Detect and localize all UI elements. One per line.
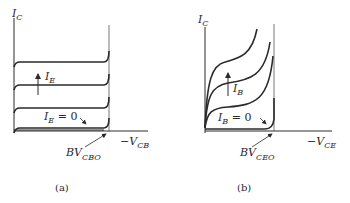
svg-text:IE: IE	[44, 70, 55, 85]
svg-text:IE = 0: IE = 0	[43, 110, 77, 125]
caption-a: (a)	[55, 182, 69, 193]
x-axis-label-a: −V	[120, 135, 138, 148]
svg-text:−VCE: −VCE	[307, 135, 336, 150]
zero-curve-pointer-a	[80, 118, 86, 124]
breakdown-sub-b: CEO	[256, 153, 275, 162]
zero-curve-eq-b: = 0	[228, 111, 251, 124]
bjt-breakdown-diagram: IC IE IE = 0 −VCB BVCBO (a) IC IB IB = 0…	[0, 0, 350, 203]
breakdown-pointer-a	[85, 134, 106, 147]
panel-a: IC IE IE = 0 −VCB BVCBO (a)	[11, 7, 149, 193]
svg-text:IB: IB	[232, 82, 243, 97]
breakdown-label-a: BV	[65, 146, 83, 159]
svg-text:IC: IC	[11, 7, 22, 22]
svg-text:BVCEO: BVCEO	[239, 146, 275, 162]
svg-text:BVCBO: BVCBO	[65, 146, 101, 162]
x-axis-sub-b: CE	[324, 141, 336, 150]
panel-b: IC IB IB = 0 −VCE BVCEO (b)	[197, 13, 336, 193]
x-axis-sub-a: CB	[137, 141, 149, 150]
svg-text:IB = 0: IB = 0	[217, 111, 251, 126]
zero-curve-eq-a: = 0	[54, 110, 77, 123]
y-axis-sub-a: C	[16, 13, 22, 22]
svg-text:IC: IC	[197, 13, 208, 28]
caption-b: (b)	[237, 182, 251, 193]
breakdown-label-b: BV	[239, 146, 257, 159]
zero-curve-pointer-b	[260, 118, 266, 124]
x-axis-label-b: −V	[307, 135, 325, 148]
y-axis-sub-b: C	[202, 19, 208, 28]
family-arrow-sub-b: B	[236, 88, 243, 97]
svg-text:−VCB: −VCB	[120, 135, 149, 150]
breakdown-sub-a: CBO	[82, 153, 101, 162]
family-arrow-sub-a: E	[48, 76, 55, 85]
